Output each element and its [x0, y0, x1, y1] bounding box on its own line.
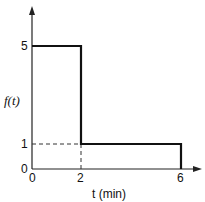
- x-tick-2: 2: [77, 172, 84, 184]
- y-axis-arrow-icon: [29, 6, 35, 15]
- x-axis-arrow-icon: [193, 166, 202, 172]
- x-tick-6: 6: [177, 172, 184, 184]
- y-tick-0: 0: [21, 163, 28, 175]
- y-axis-label: f(t): [4, 94, 20, 107]
- x-tick-0: 0: [29, 172, 36, 184]
- series-f: [32, 46, 181, 169]
- y-tick-1: 1: [21, 138, 28, 150]
- chart: 5 1 0 f(t) 0 2 6 t (min): [0, 0, 205, 202]
- x-axis-label: t (min): [92, 188, 126, 200]
- y-tick-5: 5: [21, 40, 28, 52]
